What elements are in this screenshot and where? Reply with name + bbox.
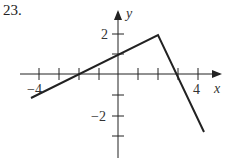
graph: y x −4 4 2 −2	[0, 0, 234, 168]
x-axis-label: x	[213, 81, 221, 96]
x-axis-arrow-icon	[212, 70, 222, 78]
x-tick-label-4: 4	[193, 82, 200, 97]
y-axis-arrow-icon	[114, 10, 122, 20]
y-axis-label: y	[124, 6, 133, 21]
y-tick-label-neg2: −2	[91, 109, 106, 124]
y-tick-label-2: 2	[101, 27, 108, 42]
x-axis	[20, 70, 222, 78]
